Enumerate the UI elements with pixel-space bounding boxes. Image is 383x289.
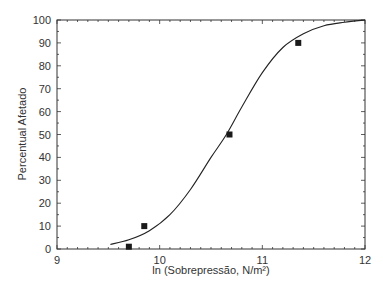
data-points xyxy=(126,40,301,250)
x-tick-label: 12 xyxy=(359,254,371,266)
y-tick-label: 10 xyxy=(39,220,51,232)
x-tick-label: 9 xyxy=(54,254,60,266)
y-tick-label: 50 xyxy=(39,129,51,141)
y-tick-label: 30 xyxy=(39,174,51,186)
fitted-curve xyxy=(110,20,365,244)
data-point-marker xyxy=(141,223,147,229)
y-axis-label: Percentual Afetado xyxy=(16,88,28,181)
y-tick-label: 20 xyxy=(39,197,51,209)
data-point-marker xyxy=(126,244,132,250)
y-tick-label: 80 xyxy=(39,60,51,72)
y-tick-label: 100 xyxy=(33,14,51,26)
y-tick-label: 90 xyxy=(39,37,51,49)
data-point-marker xyxy=(295,40,301,46)
chart: 91011120102030405060708090100 ln (Sobrep… xyxy=(0,0,383,289)
x-axis-label: ln (Sobrepressão, N/m²) xyxy=(152,264,269,276)
plot-frame xyxy=(57,20,365,249)
plot-axes: 91011120102030405060708090100 xyxy=(33,14,371,266)
y-tick-label: 0 xyxy=(45,243,51,255)
y-tick-label: 40 xyxy=(39,151,51,163)
data-point-marker xyxy=(226,132,232,138)
y-tick-label: 60 xyxy=(39,106,51,118)
y-tick-label: 70 xyxy=(39,83,51,95)
